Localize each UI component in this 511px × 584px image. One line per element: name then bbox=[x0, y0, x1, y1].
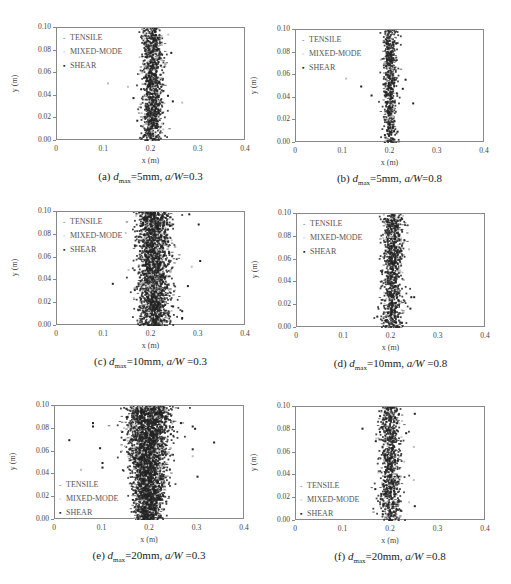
y-axis-label: y (m) bbox=[249, 454, 258, 472]
y-tick-mark bbox=[51, 451, 54, 452]
legend-f: -TENSILE▫MIXED-MODE▪SHEAR bbox=[300, 479, 359, 521]
legend-marker-icon: ▪ bbox=[303, 246, 307, 259]
y-tick-label: 0.00 bbox=[23, 514, 49, 523]
legend-item-tensile: -TENSILE bbox=[303, 217, 362, 231]
x-tick-label: 0.2 bbox=[141, 329, 161, 338]
legend-marker-icon: ▫ bbox=[63, 46, 67, 59]
legend-label: TENSILE bbox=[310, 219, 342, 228]
y-axis-label: y (m) bbox=[249, 76, 258, 94]
legend-label: SHEAR bbox=[70, 61, 96, 70]
y-tick-label: 0.06 bbox=[25, 67, 51, 76]
x-axis-label: x (m) bbox=[121, 341, 181, 350]
y-tick-mark bbox=[53, 302, 56, 303]
x-tick-label: 0.2 bbox=[141, 144, 161, 153]
x-tick-label: 0.2 bbox=[139, 523, 159, 532]
legend-item-tensile: -TENSILE bbox=[59, 478, 118, 492]
y-tick-mark bbox=[293, 281, 296, 282]
y-tick-label: 0.10 bbox=[25, 22, 51, 31]
x-axis-label: x (m) bbox=[119, 535, 179, 544]
y-tick-label: 0.08 bbox=[25, 45, 51, 54]
legend-label: SHEAR bbox=[309, 63, 335, 72]
y-tick-label: 0.06 bbox=[23, 446, 49, 455]
y-tick-mark bbox=[293, 327, 296, 328]
legend-marker-icon: ▫ bbox=[63, 230, 67, 243]
panel-caption-a: (a) dmax=5mm, a/W=0.3 bbox=[26, 170, 276, 185]
legend-item-mixed-mode: ▫MIXED-MODE bbox=[302, 47, 361, 61]
legend-e: -TENSILE▫MIXED-MODE▪SHEAR bbox=[59, 478, 118, 520]
plot-area-d: -TENSILE▫MIXED-MODE▪SHEAR bbox=[296, 213, 485, 327]
y-tick-label: 0.02 bbox=[23, 491, 49, 500]
y-tick-label: 0.02 bbox=[265, 299, 291, 308]
y-tick-mark bbox=[292, 429, 295, 430]
y-tick-label: 0.00 bbox=[264, 515, 290, 524]
y-tick-mark bbox=[292, 497, 295, 498]
legend-item-shear: ▪SHEAR bbox=[59, 506, 118, 520]
legend-label: TENSILE bbox=[66, 480, 98, 489]
legend-d: -TENSILE▫MIXED-MODE▪SHEAR bbox=[303, 217, 362, 259]
legend-label: SHEAR bbox=[70, 245, 96, 254]
legend-label: MIXED-MODE bbox=[70, 47, 122, 56]
y-tick-mark bbox=[53, 117, 56, 118]
legend-item-mixed-mode: ▫MIXED-MODE bbox=[303, 231, 362, 245]
x-tick-label: 0.3 bbox=[188, 329, 208, 338]
legend-marker-icon: - bbox=[300, 480, 304, 493]
y-tick-label: 0.06 bbox=[264, 447, 290, 456]
legend-marker-icon: ▪ bbox=[63, 60, 67, 73]
plot-area-e: -TENSILE▫MIXED-MODE▪SHEAR bbox=[54, 405, 244, 519]
y-tick-mark bbox=[292, 452, 295, 453]
panel-caption-e: (e) dmax=20mm, a/W =0.3 bbox=[24, 549, 274, 564]
y-tick-mark bbox=[51, 519, 54, 520]
plot-area-b: -TENSILE▫MIXED-MODE▪SHEAR bbox=[295, 29, 484, 142]
legend-label: MIXED-MODE bbox=[307, 495, 359, 504]
legend-item-mixed-mode: ▫MIXED-MODE bbox=[63, 229, 122, 243]
plot-area-a: -TENSILE▫MIXED-MODE▪SHEAR bbox=[56, 27, 245, 140]
legend-marker-icon: ▪ bbox=[302, 62, 306, 75]
y-tick-label: 0.08 bbox=[264, 47, 290, 56]
y-tick-mark bbox=[53, 279, 56, 280]
y-tick-mark bbox=[292, 520, 295, 521]
legend-marker-icon: ▫ bbox=[302, 48, 306, 61]
panel-caption-f: (f) dmax=20mm, a/W =0.8 bbox=[265, 550, 511, 565]
figure-footer-caption-cutoff bbox=[40, 574, 340, 584]
y-tick-mark bbox=[292, 29, 295, 30]
legend-item-shear: ▪SHEAR bbox=[300, 507, 359, 521]
legend-item-mixed-mode: ▫MIXED-MODE bbox=[59, 492, 118, 506]
legend-item-shear: ▪SHEAR bbox=[302, 61, 361, 75]
legend-item-tensile: -TENSILE bbox=[63, 215, 122, 229]
y-tick-mark bbox=[51, 496, 54, 497]
legend-item-tensile: -TENSILE bbox=[302, 33, 361, 47]
legend-label: MIXED-MODE bbox=[309, 49, 361, 58]
y-tick-mark bbox=[51, 473, 54, 474]
y-tick-label: 0.10 bbox=[264, 24, 290, 33]
x-tick-label: 0.4 bbox=[235, 144, 255, 153]
legend-label: MIXED-MODE bbox=[70, 231, 122, 240]
y-tick-label: 0.10 bbox=[264, 401, 290, 410]
y-tick-mark bbox=[292, 52, 295, 53]
y-tick-label: 0.04 bbox=[265, 276, 291, 285]
y-tick-label: 0.04 bbox=[25, 90, 51, 99]
legend-marker-icon: ▪ bbox=[300, 508, 304, 521]
y-tick-label: 0.06 bbox=[265, 254, 291, 263]
y-tick-mark bbox=[53, 257, 56, 258]
legend-marker-icon: ▪ bbox=[59, 507, 63, 520]
legend-marker-icon: ▫ bbox=[59, 493, 63, 506]
legend-label: TENSILE bbox=[309, 35, 341, 44]
x-tick-label: 0.1 bbox=[92, 523, 112, 532]
x-tick-label: 0 bbox=[46, 329, 66, 338]
y-tick-label: 0.04 bbox=[264, 92, 290, 101]
y-tick-label: 0.04 bbox=[264, 469, 290, 478]
y-tick-label: 0.00 bbox=[25, 135, 51, 144]
legend-item-shear: ▪SHEAR bbox=[303, 245, 362, 259]
plot-area-f: -TENSILE▫MIXED-MODE▪SHEAR bbox=[295, 406, 485, 520]
y-tick-label: 0.08 bbox=[23, 423, 49, 432]
y-tick-label: 0.10 bbox=[265, 208, 291, 217]
legend-item-mixed-mode: ▫MIXED-MODE bbox=[63, 45, 122, 59]
y-tick-label: 0.00 bbox=[25, 320, 51, 329]
legend-marker-icon: ▪ bbox=[63, 244, 67, 257]
y-tick-label: 0.04 bbox=[23, 468, 49, 477]
y-tick-label: 0.02 bbox=[264, 114, 290, 123]
y-axis-label: y (m) bbox=[10, 74, 19, 92]
x-tick-label: 0 bbox=[285, 146, 305, 155]
x-tick-label: 0.4 bbox=[234, 523, 254, 532]
legend-b: -TENSILE▫MIXED-MODE▪SHEAR bbox=[302, 33, 361, 75]
